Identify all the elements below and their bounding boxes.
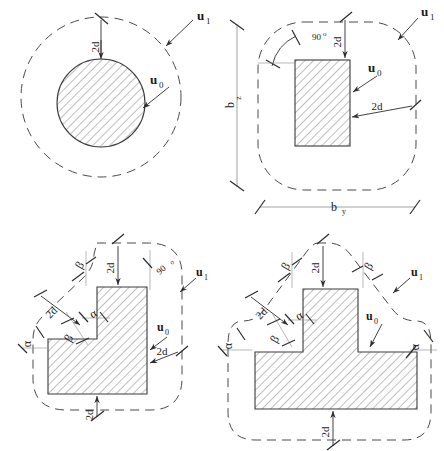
dimension-tick	[327, 440, 340, 450]
angle-tick	[352, 266, 363, 272]
column-label-u0-sub: 0	[159, 80, 164, 90]
column-section-u0	[255, 289, 417, 409]
angle-tick	[86, 257, 96, 264]
offset-label-2d: 2d	[89, 41, 101, 53]
dimension-tick	[95, 13, 108, 24]
angle-label-90: 90	[312, 32, 322, 42]
angle-tick	[237, 328, 245, 340]
angle-tick	[79, 312, 88, 322]
perimeter-label-u1-sub: 1	[430, 12, 435, 22]
offset-label-2d-bottom: 2d	[83, 409, 95, 421]
dimension-tick	[34, 290, 47, 297]
column-label-u0: u	[157, 320, 164, 334]
greek-label-beta: β	[72, 259, 87, 271]
panel-circular-column: 2d u 1 u 0	[21, 8, 211, 177]
offset-label-2d-right: 2d	[157, 345, 169, 357]
column-label-u0-sub: 0	[374, 317, 378, 326]
dimension-label-by-sub: y	[342, 207, 346, 216]
greek-label-alpha-right: α	[408, 343, 422, 350]
offset-label-2d-bottom: 2d	[319, 426, 331, 438]
angle-tick	[372, 274, 383, 280]
angle-label-degree: o	[168, 258, 176, 267]
leader-u0	[143, 87, 169, 108]
punching-shear-figure: 2d u 1 u 0 2d 2d 90 o u 1	[0, 0, 444, 451]
angle-label-degree: o	[323, 30, 327, 38]
offset-label-2d-top: 2d	[309, 262, 321, 274]
panel-rectangular-column: 2d 2d 90 o u 1 u 0 b z b y	[223, 4, 435, 216]
offset-label-2d-right: 2d	[372, 100, 384, 112]
offset-label-2d-diagonal: 2d	[43, 304, 60, 321]
column-section-u0	[295, 60, 350, 146]
leader-u1	[166, 20, 193, 46]
greek-label-beta-lower: β	[267, 333, 282, 345]
angle-tick	[292, 258, 302, 265]
angle-tick	[36, 326, 44, 338]
angle-tick	[424, 330, 433, 342]
leader-u0	[353, 76, 377, 92]
column-label-u0-sub: 0	[165, 328, 169, 337]
column-section-u0	[57, 59, 145, 147]
angle-tick	[72, 272, 84, 281]
perimeter-label-u1: u	[196, 265, 203, 279]
angle-label-90: 90	[154, 263, 168, 277]
perimeter-label-u1-sub: 1	[419, 273, 423, 282]
panel-l-shaped-column: 2d 2d 2d 2d β α β α	[18, 234, 208, 421]
column-label-u0-sub: 0	[377, 68, 382, 78]
dimension-label-bz-sub: z	[234, 96, 243, 100]
perimeter-label-u1: u	[197, 8, 204, 23]
offset-label-2d-top: 2d	[104, 262, 116, 274]
greek-label-alpha-left: α	[20, 340, 34, 347]
angle-tick	[267, 319, 280, 325]
column-label-u0: u	[366, 309, 373, 323]
greek-label-beta-left: β	[278, 260, 293, 272]
perimeter-label-u1-sub: 1	[206, 16, 211, 26]
dimension-tick	[340, 12, 352, 22]
angle-tick	[285, 314, 294, 324]
offset-label-2d-diagonal: 2d	[253, 305, 270, 322]
angle-tick	[143, 258, 152, 268]
greek-label-alpha-left: α	[221, 342, 235, 349]
leader-u1	[398, 18, 418, 40]
figure-sheet: 2d u 1 u 0 2d 2d 90 o u 1	[0, 0, 444, 451]
column-label-u0: u	[150, 72, 157, 87]
column-label-u0: u	[368, 60, 375, 75]
angle-arc-90	[272, 36, 296, 66]
perimeter-label-u1: u	[411, 265, 418, 279]
leader-u0	[370, 324, 382, 347]
panel-t-shaped-column: 2d 2d 2d β β α β α	[218, 234, 437, 450]
dimension-label-bz: b	[223, 102, 237, 108]
perimeter-label-u1-sub: 1	[204, 273, 208, 282]
column-section-u0	[48, 287, 147, 394]
offset-label-2d-top: 2d	[331, 36, 343, 48]
leader-u1	[393, 278, 410, 293]
dimension-label-by: b	[331, 200, 337, 214]
perimeter-label-u1: u	[421, 4, 428, 19]
